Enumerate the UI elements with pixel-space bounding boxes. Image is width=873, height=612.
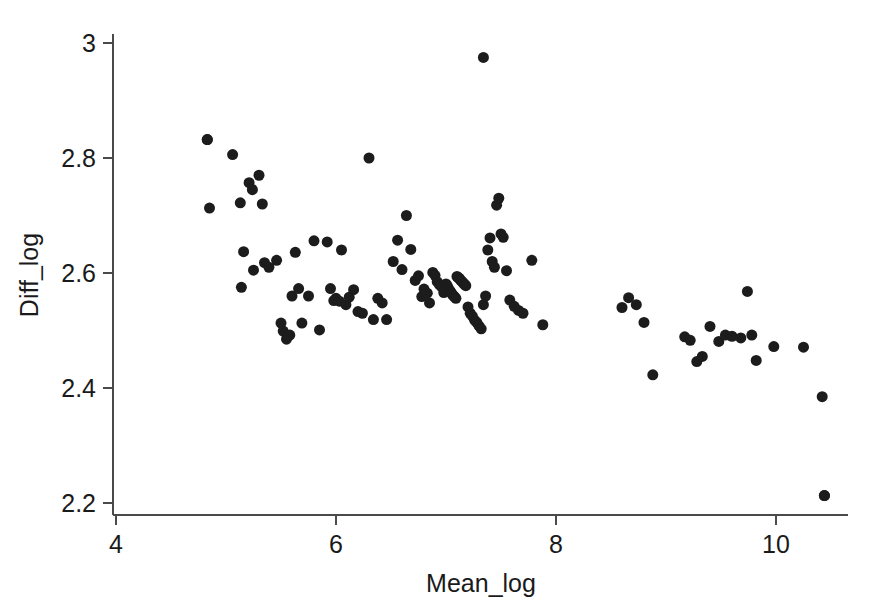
data-point <box>397 264 408 275</box>
data-point <box>227 149 238 160</box>
y-tick-label: 2.6 <box>61 259 96 287</box>
data-point <box>631 299 642 310</box>
data-point <box>290 247 301 258</box>
data-point <box>817 391 828 402</box>
data-point <box>348 284 359 295</box>
data-point <box>639 317 650 328</box>
data-point <box>450 293 461 304</box>
data-point <box>501 265 512 276</box>
data-point <box>257 199 268 210</box>
axes-group <box>113 34 848 515</box>
data-point <box>424 297 435 308</box>
data-point <box>368 314 379 325</box>
data-point <box>647 369 658 380</box>
y-tick-label: 2.4 <box>61 374 96 402</box>
data-point <box>518 308 529 319</box>
data-point <box>293 283 304 294</box>
data-point <box>238 246 249 257</box>
data-point <box>357 308 368 319</box>
data-point <box>322 236 333 247</box>
data-point <box>537 319 548 330</box>
data-point <box>413 270 424 281</box>
data-point <box>705 321 716 332</box>
data-point <box>392 235 403 246</box>
data-point <box>303 291 314 302</box>
data-point <box>364 153 375 164</box>
y-tick-label: 2.2 <box>61 489 96 517</box>
data-point-top-outlier <box>478 52 489 63</box>
data-point <box>271 255 282 266</box>
data-point <box>482 245 493 256</box>
data-point <box>768 341 779 352</box>
scatter-plot-figure: 2.22.42.62.83 46810 Mean_log Diff_log <box>0 0 873 612</box>
y-axis-title: Diff_log <box>15 233 43 317</box>
data-point <box>388 256 399 267</box>
plot-canvas: 2.22.42.62.83 46810 Mean_log Diff_log <box>0 0 873 612</box>
x-tick-label: 10 <box>762 530 790 558</box>
x-tick-label: 6 <box>329 530 343 558</box>
data-point <box>751 355 762 366</box>
x-tick-label: 4 <box>109 530 123 558</box>
x-tick-label: 8 <box>549 530 563 558</box>
y-axis-ticks: 2.22.42.62.83 <box>61 29 113 517</box>
data-point <box>309 235 320 246</box>
data-point <box>489 262 500 273</box>
data-point <box>236 282 247 293</box>
data-point <box>476 323 487 334</box>
data-point <box>697 351 708 362</box>
data-point <box>746 330 757 341</box>
data-point <box>325 283 336 294</box>
data-point <box>685 335 696 346</box>
data-point <box>405 244 416 255</box>
data-point <box>798 342 809 353</box>
data-point <box>284 330 295 341</box>
data-point <box>401 210 412 221</box>
data-point <box>493 193 504 204</box>
data-point <box>422 288 433 299</box>
data-point <box>480 291 491 302</box>
data-point <box>617 302 628 313</box>
y-tick-label: 2.8 <box>61 144 96 172</box>
data-point <box>336 245 347 256</box>
x-axis-ticks: 46810 <box>109 515 790 558</box>
data-point <box>247 184 258 195</box>
data-point <box>296 318 307 329</box>
data-point <box>235 197 246 208</box>
data-point <box>742 286 753 297</box>
y-tick-label: 3 <box>82 29 96 57</box>
data-point <box>485 232 496 243</box>
data-point <box>377 297 388 308</box>
data-point-high-left <box>202 134 213 145</box>
data-point <box>460 280 471 291</box>
data-point <box>254 170 265 181</box>
data-points-group <box>202 52 830 501</box>
data-point <box>204 203 215 214</box>
x-axis-title: Mean_log <box>426 569 536 597</box>
data-point <box>248 265 259 276</box>
data-point <box>381 314 392 325</box>
data-point-low-right <box>819 490 830 501</box>
data-point <box>526 255 537 266</box>
data-point <box>314 324 325 335</box>
data-point <box>498 232 509 243</box>
data-point <box>735 332 746 343</box>
